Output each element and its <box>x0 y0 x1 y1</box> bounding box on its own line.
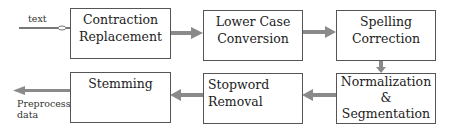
step-label-line: Correction <box>352 31 420 46</box>
step-label: Spelling Correction <box>337 11 435 47</box>
input-arrow <box>19 26 70 30</box>
step-label-line: Spelling <box>360 14 412 29</box>
step-label-line: Removal <box>208 94 263 109</box>
step-label-line: Replacement <box>79 29 162 44</box>
step-label: Stopword Removal <box>204 74 302 110</box>
step-spelling-correction: Spelling Correction <box>336 10 436 61</box>
output-label: Preprocessed data <box>17 98 77 120</box>
step-stopword-removal: Stopword Removal <box>203 73 303 124</box>
step-label-line: Contraction <box>83 12 158 27</box>
step-label-line: Stopword <box>208 77 269 92</box>
step-label: Normalization & Segmentation <box>337 74 435 122</box>
output-label-line-2: data <box>17 109 38 120</box>
output-arrow <box>13 86 70 95</box>
step-lower-case-conversion: Lower Case Conversion <box>203 10 303 61</box>
step-normalization-segmentation: Normalization & Segmentation <box>336 73 436 124</box>
arrow-contraction-to-lowercase <box>170 27 203 39</box>
step-label: Lower Case Conversion <box>204 11 302 47</box>
step-label: Contraction Replacement <box>71 9 170 45</box>
arrow-spelling-to-normalization <box>376 60 386 73</box>
step-contraction-replacement: Contraction Replacement <box>70 8 171 59</box>
step-label-line: Normalization <box>341 74 431 89</box>
step-label-line: Conversion <box>217 31 289 46</box>
step-stemming: Stemming <box>70 72 171 123</box>
step-label-line: & <box>380 90 391 105</box>
arrow-normalization-to-stopword <box>302 89 336 101</box>
step-label-line: Lower Case <box>216 14 291 29</box>
step-label: Stemming <box>71 73 170 92</box>
arrow-stopword-to-stemming <box>170 89 203 101</box>
step-label-line: Segmentation <box>342 106 430 121</box>
arrow-lowercase-to-spelling <box>302 26 336 38</box>
input-label: text <box>28 13 47 24</box>
